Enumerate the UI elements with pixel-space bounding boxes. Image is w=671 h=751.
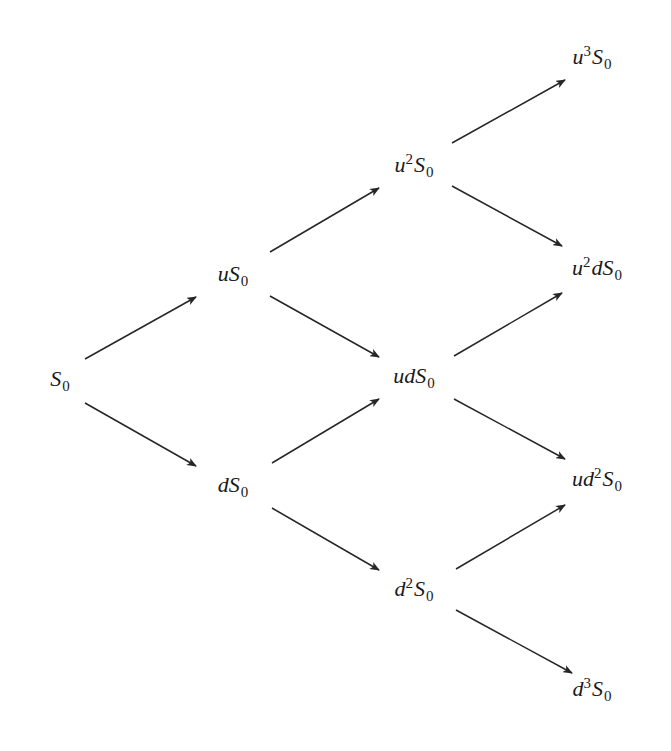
exponent: 2 — [406, 575, 414, 591]
arrow-dS0-to-udS0 — [272, 399, 379, 463]
factor-d: d — [395, 576, 406, 601]
factor-d: d — [592, 255, 603, 280]
base-price-symbol: S — [592, 44, 603, 69]
factor-u: u — [572, 255, 583, 280]
factor-u: u — [395, 152, 406, 177]
subscript-zero: 0 — [615, 478, 623, 494]
factor-ud: ud — [572, 466, 594, 491]
base-price-symbol: S — [414, 152, 425, 177]
subscript-zero: 0 — [427, 375, 435, 391]
node-dS0: dS0 — [218, 474, 249, 500]
node-d3S0: d3S0 — [573, 676, 612, 704]
exponent: 3 — [584, 675, 592, 691]
arrow-udS0-to-ud2S0 — [454, 399, 565, 459]
binomial-tree-diagram — [0, 0, 671, 751]
base-price-symbol: S — [603, 466, 614, 491]
base-price-symbol: S — [50, 366, 61, 391]
arrow-u2S0-to-u3S0 — [452, 80, 565, 143]
node-udS0: udS0 — [393, 365, 435, 391]
arrow-d2S0-to-d3S0 — [456, 610, 572, 673]
node-u3S0: u3S0 — [573, 44, 612, 72]
base-price-symbol: S — [229, 261, 240, 286]
arrow-dS0-to-d2S0 — [272, 508, 379, 570]
factor-d: d — [218, 472, 229, 497]
node-S0: S0 — [50, 368, 70, 394]
subscript-zero: 0 — [426, 164, 434, 180]
node-u2dS0: u2dS0 — [572, 255, 622, 283]
node-uS0: uS0 — [218, 263, 249, 289]
arrow-uS0-to-u2S0 — [270, 188, 379, 252]
node-ud2S0: ud2S0 — [572, 466, 622, 494]
arrow-udS0-to-u2dS0 — [454, 293, 562, 356]
subscript-zero: 0 — [604, 688, 612, 704]
factor-u: u — [573, 44, 584, 69]
base-price-symbol: S — [229, 472, 240, 497]
node-u2S0: u2S0 — [395, 152, 434, 180]
subscript-zero: 0 — [426, 588, 434, 604]
exponent: 3 — [584, 43, 592, 59]
arrow-S0-to-uS0 — [85, 297, 196, 359]
arrow-uS0-to-udS0 — [270, 296, 379, 357]
subscript-zero: 0 — [615, 267, 623, 283]
factor-u: u — [218, 261, 229, 286]
base-price-symbol: S — [592, 676, 603, 701]
exponent: 2 — [583, 254, 591, 270]
edges-group — [85, 80, 572, 673]
arrow-u2S0-to-u2dS0 — [452, 186, 562, 246]
exponent: 2 — [594, 465, 602, 481]
subscript-zero: 0 — [62, 378, 70, 394]
node-d2S0: d2S0 — [395, 576, 434, 604]
subscript-zero: 0 — [241, 484, 249, 500]
arrow-S0-to-dS0 — [85, 403, 196, 466]
exponent: 2 — [406, 151, 414, 167]
factor-ud: ud — [393, 363, 415, 388]
base-price-symbol: S — [414, 576, 425, 601]
base-price-symbol: S — [415, 363, 426, 388]
base-price-symbol: S — [603, 255, 614, 280]
factor-d: d — [573, 676, 584, 701]
subscript-zero: 0 — [241, 273, 249, 289]
arrow-d2S0-to-ud2S0 — [456, 505, 565, 569]
subscript-zero: 0 — [604, 56, 612, 72]
